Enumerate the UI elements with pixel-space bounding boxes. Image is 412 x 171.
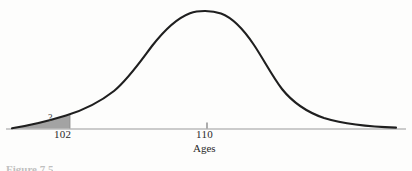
shaded-area-question-annotation: ?	[48, 112, 52, 123]
normal-curve	[12, 11, 396, 128]
x-tick-label-110: 110	[196, 128, 213, 140]
x-tick-label-102: 102	[54, 128, 71, 140]
figure-caption: Figure 7.5	[6, 163, 53, 171]
x-axis-title: Ages	[193, 142, 216, 154]
figure-normal-distribution: 102 110 Ages ? Figure 7.5	[0, 0, 412, 171]
